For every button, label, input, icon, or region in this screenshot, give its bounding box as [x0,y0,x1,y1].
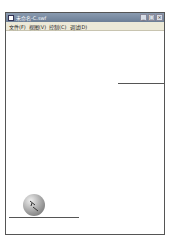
close-button[interactable]: × [156,14,163,21]
ground-line [9,217,79,218]
window-title: 未命名-C.swf [16,14,46,21]
menu-file[interactable]: 文件(F) [9,23,26,30]
menu-view[interactable]: 视图(V) [29,23,46,30]
menu-control[interactable]: 控制(C) [49,23,66,30]
ball-markings-icon [23,194,45,216]
title-bar[interactable]: 未命名-C.swf _ □ × [6,13,164,22]
app-icon [8,15,14,21]
menu-debug[interactable]: 调试(D) [70,23,88,30]
flash-player-window: 未命名-C.swf _ □ × 文件(F) 视图(V) 控制(C) 调试(D) [5,12,165,235]
minimize-button[interactable]: _ [140,14,147,21]
maximize-button[interactable]: □ [148,14,155,21]
rolling-ball [23,194,45,216]
upper-ledge-line [118,83,165,84]
window-controls: _ □ × [140,14,163,21]
flash-stage[interactable] [6,31,164,234]
menu-bar: 文件(F) 视图(V) 控制(C) 调试(D) [6,22,164,31]
